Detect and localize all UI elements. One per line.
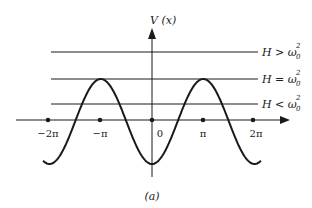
svg-text:2: 2 [295, 69, 301, 77]
y-axis-arrow-icon [148, 28, 156, 39]
tick-label-2pi: 2π [250, 128, 263, 139]
tick-label-neg-pi: −π [93, 128, 108, 139]
svg-text:0: 0 [296, 80, 301, 88]
svg-text:0: 0 [296, 53, 301, 61]
svg-text:H = ω: H = ω [261, 73, 297, 86]
svg-text:H > ω: H > ω [261, 46, 297, 59]
tick-label-neg-2pi: −2π [37, 128, 59, 139]
x-axis-arrow-icon [280, 116, 290, 124]
energy-label-below: H < ω 2 0 [261, 94, 301, 113]
svg-text:2: 2 [295, 42, 301, 50]
energy-label-above: H > ω 2 0 [261, 42, 301, 61]
svg-text:H < ω: H < ω [261, 98, 297, 111]
svg-text:2: 2 [295, 94, 301, 102]
energy-label-equal: H = ω 2 0 [261, 69, 301, 88]
svg-text:0: 0 [296, 105, 301, 113]
tick-label-pi: π [200, 128, 207, 139]
tick-label-zero: 0 [157, 128, 163, 139]
potential-diagram: −2π −π 0 π 2π V (x) H > ω 2 0 H = ω 2 0 … [0, 0, 312, 208]
figure-caption: (a) [144, 190, 159, 203]
y-axis-label: V (x) [150, 14, 176, 27]
